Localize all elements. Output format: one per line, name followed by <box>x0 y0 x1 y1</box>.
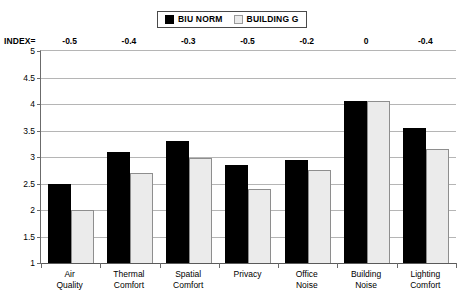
x-axis-tick <box>41 263 42 268</box>
bar-building-g <box>71 210 94 263</box>
bar-biu-norm <box>344 101 367 263</box>
bar-biu-norm <box>48 184 71 264</box>
category-line: Quality <box>40 280 99 291</box>
index-value: -0.3 <box>159 36 218 47</box>
bar-groups <box>41 51 456 263</box>
x-axis-tick <box>278 263 279 268</box>
index-value: -0.5 <box>40 36 99 47</box>
category-line: Office <box>277 269 336 280</box>
legend-label-building-g: BUILDING G <box>247 15 299 24</box>
chart-legend: BIU NORM BUILDING G <box>157 11 307 28</box>
bar-group-privacy <box>219 51 278 263</box>
category-line: Building <box>336 269 395 280</box>
y-axis-label: 4 <box>30 100 35 109</box>
index-value: -0.2 <box>277 36 336 47</box>
category-line: Thermal <box>99 269 158 280</box>
legend-entry-building-g: BUILDING G <box>234 15 299 24</box>
x-axis-tick <box>397 263 398 268</box>
y-axis-label: 3 <box>30 153 35 162</box>
index-row-label: INDEX= <box>4 36 36 46</box>
bar-group-thermal-comfort <box>100 51 159 263</box>
legend-label-biu-norm: BIU NORM <box>178 15 223 24</box>
bar-group-office-noise <box>278 51 337 263</box>
bar-biu-norm <box>166 141 189 263</box>
y-axis-label: 1.5 <box>23 232 35 241</box>
bar-group-building-noise <box>337 51 396 263</box>
category-line: Air <box>40 269 99 280</box>
bar-biu-norm <box>285 160 308 263</box>
bar-building-g <box>248 189 271 263</box>
dark-square-icon <box>165 15 174 24</box>
category-label-thermal-comfort: Thermal Comfort <box>99 269 158 291</box>
x-axis-tick <box>337 263 338 268</box>
bar-group-air-quality <box>41 51 100 263</box>
category-line: Comfort <box>159 280 218 291</box>
index-value: 0 <box>336 36 395 47</box>
bar-biu-norm <box>403 128 426 263</box>
category-label-lighting-comfort: Lighting Comfort <box>396 269 455 291</box>
category-line: Noise <box>336 280 395 291</box>
x-axis-tick <box>456 263 457 268</box>
index-annotation-row: -0.5 -0.4 -0.3 -0.5 -0.2 0 -0.4 <box>40 36 455 47</box>
bar-building-g <box>426 149 449 263</box>
y-axis-label: 5 <box>30 47 35 56</box>
category-line: Privacy <box>218 269 277 280</box>
category-label-spatial-comfort: Spatial Comfort <box>159 269 218 291</box>
category-line: Spatial <box>159 269 218 280</box>
x-axis-tick <box>100 263 101 268</box>
bar-building-g <box>367 101 390 263</box>
y-axis-label: 2.5 <box>23 179 35 188</box>
bar-biu-norm <box>107 152 130 263</box>
category-label-air-quality: Air Quality <box>40 269 99 291</box>
index-value: -0.4 <box>396 36 455 47</box>
y-axis-label: 4.5 <box>23 73 35 82</box>
category-line: Lighting <box>396 269 455 280</box>
index-value: -0.4 <box>99 36 158 47</box>
bar-building-g <box>189 158 212 263</box>
light-square-icon <box>234 15 243 24</box>
category-line: Comfort <box>396 280 455 291</box>
index-value: -0.5 <box>218 36 277 47</box>
category-label-office-noise: Office Noise <box>277 269 336 291</box>
legend-entry-biu-norm: BIU NORM <box>165 15 223 24</box>
x-axis-tick <box>219 263 220 268</box>
x-axis-category-labels: Air Quality Thermal Comfort Spatial Comf… <box>40 269 455 291</box>
bar-biu-norm <box>225 165 248 263</box>
category-label-privacy: Privacy <box>218 269 277 291</box>
bar-group-spatial-comfort <box>160 51 219 263</box>
y-axis-label: 1 <box>30 259 35 268</box>
bar-group-lighting-comfort <box>397 51 456 263</box>
category-line: Noise <box>277 280 336 291</box>
bar-building-g <box>308 170 331 263</box>
category-label-building-noise: Building Noise <box>336 269 395 291</box>
x-axis-tick <box>160 263 161 268</box>
chart-plot-area: 11.522.533.544.55 <box>40 50 456 263</box>
x-axis-line <box>41 263 457 264</box>
y-axis-label: 3.5 <box>23 126 35 135</box>
category-line: Comfort <box>99 280 158 291</box>
y-axis-label: 2 <box>30 206 35 215</box>
bar-building-g <box>130 173 153 263</box>
